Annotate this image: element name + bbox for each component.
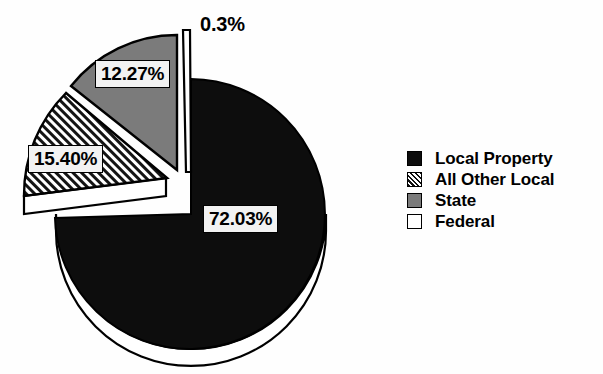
data-label-federal: 0.3% [200, 14, 245, 34]
data-label-all-other-local: 15.40% [28, 145, 103, 173]
legend-swatch-hatched-icon [407, 172, 422, 187]
chart-area: 0.3% 12.27% 15.40% 72.03% [0, 0, 400, 374]
legend-label-state: State [435, 192, 476, 209]
data-label-local-property: 72.03% [203, 205, 278, 233]
legend-swatch-black-icon [407, 151, 422, 166]
chart-legend: Local Property All Other Local State Fed… [407, 148, 597, 232]
legend-label-federal: Federal [435, 213, 495, 230]
pie-chart-graphic [0, 0, 400, 374]
legend-swatch-gray-icon [407, 193, 422, 208]
legend-item-all-other-local[interactable]: All Other Local [407, 169, 597, 189]
legend-label-all-other-local: All Other Local [435, 171, 554, 188]
legend-item-local-property[interactable]: Local Property [407, 148, 597, 168]
data-label-state: 12.27% [95, 60, 170, 88]
legend-item-state[interactable]: State [407, 190, 597, 210]
pie-chart-page: 0.3% 12.27% 15.40% 72.03% Local Property… [0, 0, 603, 374]
pie-slice-federal[interactable] [183, 30, 191, 172]
legend-item-federal[interactable]: Federal [407, 211, 597, 231]
legend-label-local-property: Local Property [435, 150, 553, 167]
legend-swatch-white-icon [407, 214, 422, 229]
